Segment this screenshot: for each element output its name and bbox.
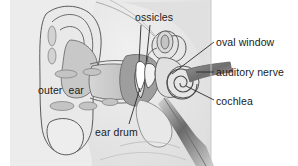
ear-anatomy-diagram: ossicles oval window auditory nerve coch…	[0, 0, 298, 166]
cartilage-blob	[48, 26, 56, 46]
cartilage-blob	[55, 70, 77, 78]
ear-anatomy-illustration	[0, 0, 298, 166]
label-ear-drum: ear drum	[95, 126, 138, 138]
label-cochlea: cochlea	[216, 95, 253, 107]
label-oval-window: oval window	[216, 36, 274, 48]
cartilage-blob	[79, 102, 97, 110]
label-outer-ear: outer ear	[38, 84, 84, 96]
label-auditory-nerve: auditory nerve	[216, 66, 284, 78]
cartilage-blob	[48, 48, 56, 64]
cartilage-blob	[50, 102, 74, 111]
cartilage-blob	[83, 69, 101, 76]
label-ossicles: ossicles	[135, 11, 173, 23]
cartilage-blob	[102, 99, 118, 106]
